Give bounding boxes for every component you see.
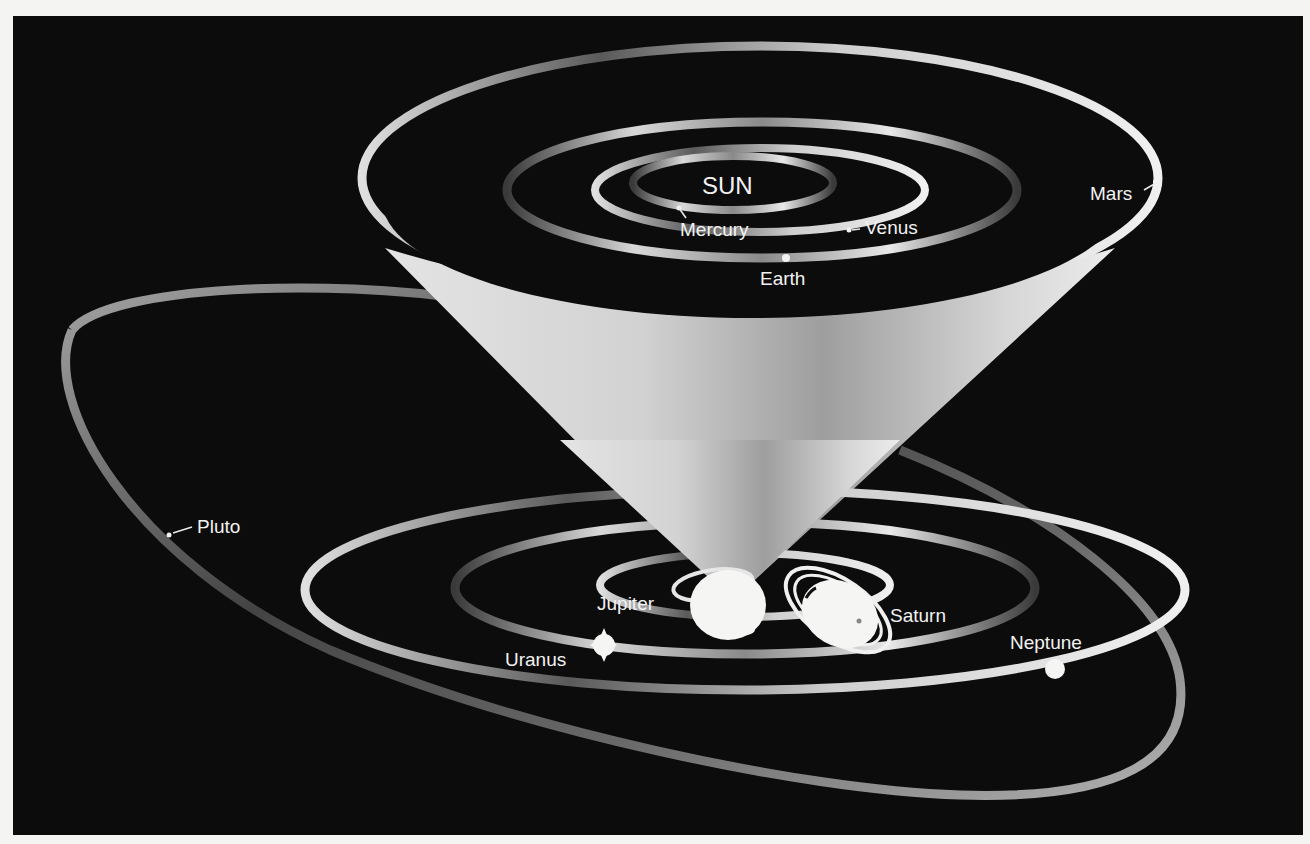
label-saturn: Saturn <box>890 605 946 626</box>
label-mars: Mars <box>1090 183 1132 204</box>
label-pluto: Pluto <box>197 516 240 537</box>
planet-uranus <box>590 628 617 662</box>
solar-system-diagram: SUN Mercury Venus Earth Mars Jupiter Sat… <box>0 0 1310 844</box>
label-uranus: Uranus <box>505 649 566 670</box>
planet-pluto <box>167 533 172 538</box>
label-mercury: Mercury <box>680 219 749 240</box>
planet-venus <box>847 228 852 233</box>
label-neptune: Neptune <box>1010 632 1082 653</box>
label-earth: Earth <box>760 268 805 289</box>
planet-neptune <box>1045 659 1065 679</box>
planet-earth <box>782 254 790 262</box>
label-sun: SUN <box>702 172 753 199</box>
planet-jupiter <box>671 565 766 640</box>
label-venus: Venus <box>865 217 918 238</box>
label-jupiter: Jupiter <box>597 593 655 614</box>
